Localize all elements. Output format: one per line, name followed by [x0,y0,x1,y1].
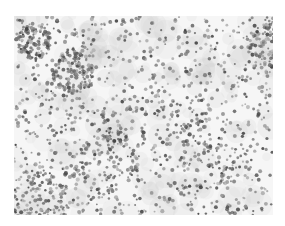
particle-field [14,16,273,215]
micrograph-image [14,16,273,215]
